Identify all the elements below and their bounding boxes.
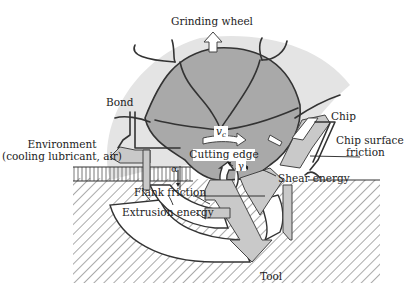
label-environment: Environment — [28, 138, 98, 150]
label-clearance-angle: α — [171, 163, 178, 174]
label-chip-surface-friction-2: friction — [346, 146, 385, 158]
label-tool: Tool — [260, 270, 283, 282]
label-grinding-wheel: Grinding wheel — [171, 15, 254, 27]
grinding-energy-diagram: Grinding wheel Bond Environment (cooling… — [0, 0, 404, 301]
label-bond: Bond — [106, 96, 134, 108]
label-shear-energy: Shear energy — [278, 172, 350, 184]
label-environment-detail: (cooling lubricant, air) — [2, 150, 122, 162]
label-cutting-edge: Cutting edge — [189, 148, 258, 160]
label-chip-surface-friction-1: Chip surface — [336, 134, 404, 146]
label-chip: Chip — [331, 110, 356, 122]
label-flank-friction: Flank friction — [134, 186, 206, 198]
label-rake-angle: γ — [238, 160, 244, 171]
label-extrusion-energy: Extrusion energy — [122, 206, 214, 218]
